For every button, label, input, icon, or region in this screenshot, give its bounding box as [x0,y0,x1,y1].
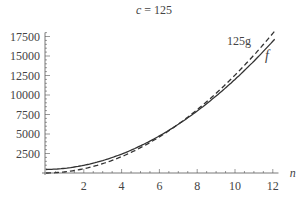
y-tick-label: 10000 [10,88,40,102]
y-tick-label: 7500 [16,108,40,122]
series-125g-line [46,31,275,173]
y-tick-label: 15000 [10,49,40,63]
series-f-label: f [265,48,271,63]
y-tick-label: 12500 [10,69,40,83]
y-tick-label: 2500 [16,147,40,161]
y-tick-label: 5000 [16,127,40,141]
series-125g-label: 125g [227,34,251,48]
x-axis-label: n [290,166,296,180]
y-tick-label: 17500 [10,30,40,44]
x-tick-label: 8 [194,179,200,193]
x-tick-label: 10 [229,179,241,193]
chart-plot: 2468101225005000750010000125001500017500… [0,0,308,200]
x-tick-label: 4 [119,179,125,193]
x-tick-label: 2 [81,179,87,193]
series-f-line [46,39,275,169]
x-tick-label: 12 [267,179,279,193]
x-tick-label: 6 [156,179,162,193]
